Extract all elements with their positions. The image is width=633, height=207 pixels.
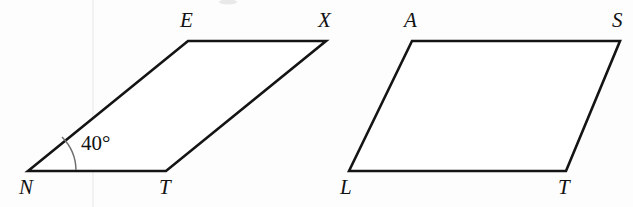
vertex-label-x: X [318, 10, 331, 31]
vertex-label-n: N [19, 177, 33, 198]
vertex-label-s: S [612, 10, 623, 31]
vertex-label-t-left: T [159, 177, 171, 198]
figure-canvas [0, 0, 633, 207]
geometry-figure: N E X T 40° L A S T [0, 0, 633, 207]
vertex-label-a: A [404, 10, 417, 31]
vertex-label-l: L [340, 177, 352, 198]
angle-measure-label: 40° [81, 133, 110, 154]
vertex-label-e: E [180, 10, 193, 31]
vertex-label-t-right: T [558, 177, 570, 198]
